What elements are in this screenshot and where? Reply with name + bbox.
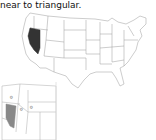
svg-text:○: ○ [20, 107, 23, 111]
us-map [0, 10, 156, 90]
us-map-svg [0, 10, 156, 90]
svg-text:○: ○ [30, 105, 33, 109]
inset-map-svg: ○ ○ ○ [0, 82, 60, 140]
western-us-inset-map: ○ ○ ○ [0, 82, 60, 140]
svg-text:○: ○ [10, 95, 13, 99]
us-outline [22, 13, 146, 88]
